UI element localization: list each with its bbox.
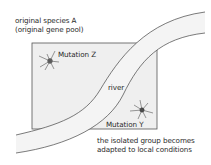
mutation-y-label: Mutation Y (106, 121, 143, 130)
mutation-z-label: Mutation Z (58, 51, 96, 60)
river-label: river (108, 84, 124, 93)
species-label-line2: (original gene pool) (15, 26, 83, 35)
species-label: original species A (original gene pool) (15, 17, 83, 34)
caption: the isolated group becomes adapted to lo… (97, 137, 195, 154)
caption-line2: adapted to local conditions (97, 146, 195, 155)
